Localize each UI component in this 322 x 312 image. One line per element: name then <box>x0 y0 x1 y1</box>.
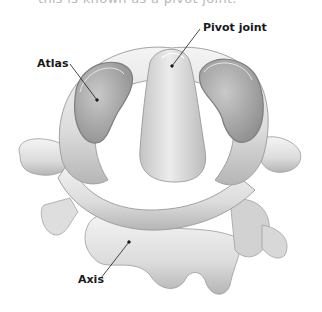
atlas-label: Atlas <box>37 57 69 70</box>
vertebrae-illustration <box>0 0 322 312</box>
pivot-joint-label: Pivot joint <box>203 21 267 34</box>
axis-label: Axis <box>78 273 104 286</box>
